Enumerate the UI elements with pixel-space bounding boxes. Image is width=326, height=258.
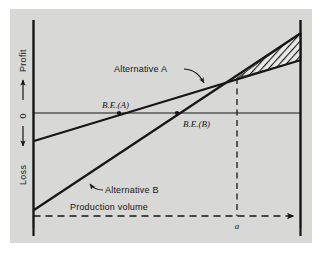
break-even-point-a xyxy=(117,111,121,115)
annotation-alternative-a: Alternative A xyxy=(114,64,204,83)
annotation-alternative-a-label: Alternative A xyxy=(114,64,167,74)
break-even-chart: Profit 0 Loss Alternative A Alternative … xyxy=(0,0,326,258)
x-axis-label: Production volume xyxy=(70,202,148,212)
y-axis-origin-label: 0 xyxy=(18,113,28,118)
annotation-alternative-b-leader xyxy=(90,184,103,190)
figure-root: Profit 0 Loss Alternative A Alternative … xyxy=(0,0,326,258)
y-axis-label-loss: Loss xyxy=(18,165,28,185)
series-line-alternative-b xyxy=(34,33,301,210)
annotation-alternative-a-leader xyxy=(184,69,204,83)
break-even-point-b xyxy=(175,111,179,115)
break-even-b-label: B.E.(B) xyxy=(183,119,210,129)
y-axis-label-group: Profit 0 Loss xyxy=(18,49,28,185)
break-even-a-label: B.E.(A) xyxy=(102,100,129,110)
x-axis-tick-label-a: a xyxy=(235,221,240,231)
annotation-alternative-b-label: Alternative B xyxy=(105,185,159,195)
series-line-alternative-a xyxy=(34,60,301,141)
y-axis-label-profit: Profit xyxy=(18,49,28,72)
annotation-alternative-b: Alternative B xyxy=(90,184,159,195)
